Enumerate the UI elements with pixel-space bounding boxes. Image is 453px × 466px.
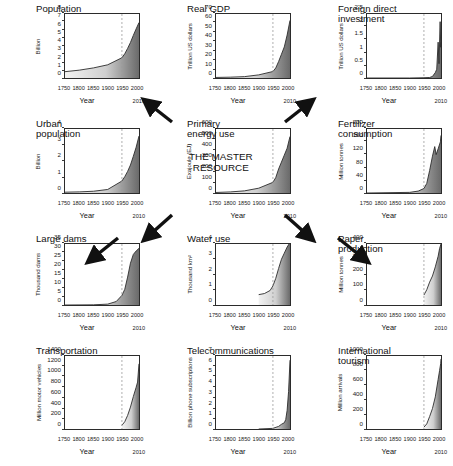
x-tick-label: 1750 xyxy=(360,200,372,206)
y-tick-label: 0 xyxy=(360,297,363,303)
plot-frame-population xyxy=(64,13,140,79)
x-axis-ticks-urban-population: 175018001850190019502000 xyxy=(64,200,140,208)
x-tick-label: 2000 xyxy=(282,312,294,318)
y-tick-label: 0 xyxy=(58,297,61,303)
x-axis-label-telecommunications: Year xyxy=(185,447,291,456)
x-axis-label-large-dams: Year xyxy=(34,323,140,332)
x-tick-label: 1750 xyxy=(209,85,221,91)
x-tick-label: 1750 xyxy=(360,312,372,318)
y-tick-label: 100 xyxy=(202,174,212,180)
y-tick-label: 4 xyxy=(58,37,61,43)
x-tick-label: 1750 xyxy=(58,85,70,91)
y-tick-label: 1 xyxy=(209,281,212,287)
x-tick-label: 2000 xyxy=(131,200,143,206)
y-tick-label: 0 xyxy=(209,70,212,76)
y-tick-label: 0 xyxy=(360,185,363,191)
y-tick-label: 0 xyxy=(58,421,61,427)
panel-foreign-direct-investment: Trillion US dollars00.511.522.5Foreign d… xyxy=(302,0,453,115)
x-axis-label-primary-energy-use: Year xyxy=(185,211,291,220)
y-axis-label-text: Million tonnes xyxy=(337,256,344,292)
panel-primary-energy-use: Exajoule (EJ)0100200300400500600Primary … xyxy=(151,115,302,230)
y-axis-ticks-urban-population: 01234 xyxy=(44,128,64,194)
y-tick-label: 2 xyxy=(58,152,61,158)
y-tick-label: 0 xyxy=(58,185,61,191)
x-tick-label: 1800 xyxy=(72,85,84,91)
panel-telecommunications: Billion phone subscriptions01234567Telec… xyxy=(151,342,302,466)
y-tick-label: 70 xyxy=(205,4,212,10)
y-tick-label: 400 xyxy=(353,391,363,397)
plot-frame-paper-production xyxy=(366,243,442,306)
x-axis-ticks-real-gdp: 175018001850190019502000 xyxy=(215,85,291,93)
y-axis-ticks-large-dams: 05101520253035 xyxy=(44,243,64,306)
y-axis-label-text: Million motor vehicles xyxy=(35,364,42,421)
y-tick-label: 30 xyxy=(205,42,212,48)
y-axis-label-primary-energy-use: Exajoule (EJ) xyxy=(183,128,195,194)
y-axis-ticks-primary-energy-use: 0100200300400500600 xyxy=(195,128,215,194)
area-fill xyxy=(259,360,290,429)
y-tick-label: 400 xyxy=(51,400,61,406)
y-tick-label: 2 xyxy=(209,400,212,406)
panel-international-tourism: Million arrivals02004006008001000Interna… xyxy=(302,342,453,466)
y-tick-label: 7 xyxy=(209,346,212,352)
y-tick-label: 300 xyxy=(353,250,363,256)
y-tick-label: 20 xyxy=(205,51,212,57)
y-axis-ticks-real-gdp: 010203040506070 xyxy=(195,13,215,79)
y-tick-label: 50 xyxy=(205,23,212,29)
plot-frame-real-gdp xyxy=(215,13,291,79)
x-axis-label-water-use: Year xyxy=(185,323,291,332)
y-axis-label-population: Billion xyxy=(32,13,44,79)
panel-paper-production: Million tonnes0100200300400Paper product… xyxy=(302,230,453,342)
x-tick-label: 1900 xyxy=(404,312,416,318)
x-axis-ticks-water-use: 175018001850190019502000 xyxy=(215,312,291,320)
y-tick-label: 0 xyxy=(209,185,212,191)
plot-area-paper-production: Million tonnes0100200300400 xyxy=(336,243,442,306)
area-fill xyxy=(65,23,139,78)
y-axis-label-text: Million tonnes xyxy=(337,143,344,179)
plot-area-foreign-direct-investment: Trillion US dollars00.511.522.5 xyxy=(336,13,442,79)
y-tick-label: 1 xyxy=(209,410,212,416)
y-tick-label: 3 xyxy=(58,45,61,51)
x-axis-ticks-primary-energy-use: 175018001850190019502000 xyxy=(215,200,291,208)
x-tick-label: 1750 xyxy=(58,436,70,442)
x-tick-label: 1800 xyxy=(374,85,386,91)
x-tick-label: 1950 xyxy=(116,200,128,206)
y-tick-label: 600 xyxy=(202,119,212,125)
y-tick-label: 0 xyxy=(209,297,212,303)
y-tick-label: 3 xyxy=(209,389,212,395)
y-tick-label: 300 xyxy=(202,152,212,158)
area-fill xyxy=(424,359,441,429)
y-tick-label: 2.5 xyxy=(354,4,363,10)
series-line xyxy=(367,22,441,78)
x-tick-label: 1950 xyxy=(418,312,430,318)
x-axis-label-foreign-direct-investment: Year xyxy=(336,96,442,105)
y-axis-label-large-dams: Thousand dams xyxy=(32,243,44,306)
y-tick-label: 6 xyxy=(209,357,212,363)
x-tick-label: 1900 xyxy=(102,200,114,206)
y-tick-label: 15 xyxy=(54,270,61,276)
y-axis-label-text: Trillion US dollars xyxy=(186,23,193,69)
y-axis-label-text: Billion xyxy=(35,38,42,54)
x-axis-ticks-population: 175018001850190019502000 xyxy=(64,85,140,93)
x-tick-label: 1900 xyxy=(253,436,265,442)
plot-area-large-dams: Thousand dams05101520253035 xyxy=(34,243,140,306)
plot-frame-foreign-direct-investment xyxy=(366,13,442,79)
y-tick-label: 6 xyxy=(58,21,61,27)
y-tick-label: 200 xyxy=(51,410,61,416)
y-tick-label: 1400 xyxy=(47,346,61,352)
y-tick-label: 40 xyxy=(205,32,212,38)
x-tick-label: 1900 xyxy=(253,312,265,318)
series-line xyxy=(259,360,290,429)
y-tick-label: 7 xyxy=(58,12,61,18)
x-tick-label: 1950 xyxy=(267,312,279,318)
x-tick-label: 1800 xyxy=(72,436,84,442)
x-tick-label: 2000 xyxy=(282,200,294,206)
x-tick-label: 1900 xyxy=(404,85,416,91)
x-axis-label-real-gdp: Year xyxy=(185,96,291,105)
y-axis-ticks-paper-production: 0100200300400 xyxy=(346,243,366,306)
x-tick-label: 1950 xyxy=(116,312,128,318)
x-tick-label: 2000 xyxy=(433,436,445,442)
y-tick-label: 200 xyxy=(202,163,212,169)
panel-water-use: Thousand km²01234Water use17501800185019… xyxy=(151,230,302,342)
y-tick-label: 1 xyxy=(58,169,61,175)
x-tick-label: 1850 xyxy=(87,436,99,442)
